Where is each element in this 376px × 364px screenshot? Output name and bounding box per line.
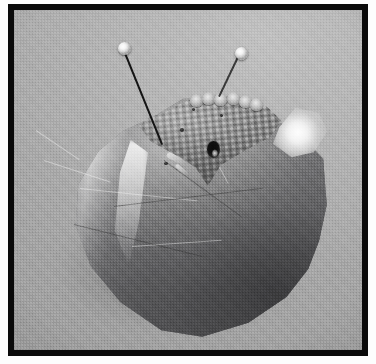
pin-head bbox=[118, 42, 131, 55]
surface-pit bbox=[164, 162, 168, 165]
screenshot-root: Black-framed grayscale halftone photogra… bbox=[0, 0, 376, 364]
surface-pit bbox=[220, 114, 223, 117]
image-alt-text: Black-framed grayscale halftone photogra… bbox=[0, 0, 1, 1]
surface-pit bbox=[180, 128, 184, 132]
facet-line bbox=[36, 130, 80, 160]
photo-frame bbox=[8, 4, 368, 356]
surface-pit bbox=[192, 108, 195, 111]
photograph bbox=[14, 10, 362, 350]
pin-head bbox=[235, 47, 248, 60]
specimen-group bbox=[14, 10, 362, 350]
bore-hole bbox=[207, 141, 220, 158]
